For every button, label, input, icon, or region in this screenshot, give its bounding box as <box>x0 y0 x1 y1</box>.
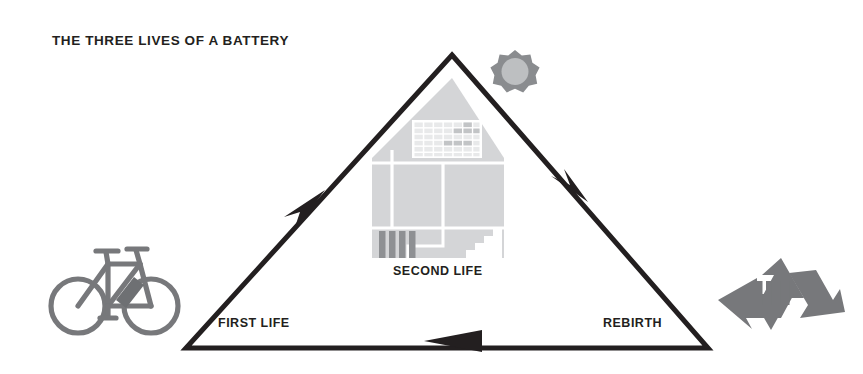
bicycle-icon <box>51 249 178 333</box>
recycling-icon <box>718 258 845 330</box>
sun-icon <box>490 50 539 92</box>
solar-panel-icon <box>412 120 482 158</box>
diagram-illustration <box>0 0 863 374</box>
stage-label-rebirth: REBIRTH <box>603 316 662 330</box>
house-icon <box>372 78 504 258</box>
stage-label-first-life: FIRST LIFE <box>218 316 290 330</box>
arrow-first-life <box>284 190 325 233</box>
infographic-canvas: THE THREE LIVES OF A BATTERY <box>0 0 863 374</box>
stage-label-second-life: SECOND LIFE <box>393 264 483 278</box>
